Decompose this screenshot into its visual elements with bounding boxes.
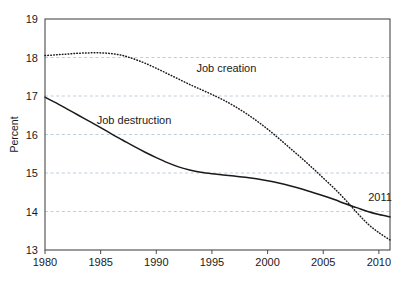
x-tick-label-2005: 2005	[311, 256, 335, 268]
y-axis-title: Percent	[8, 116, 20, 152]
chart-container: 13141516171819 1980198519901995200020052…	[0, 0, 416, 284]
y-tick-label-17: 17	[26, 90, 38, 102]
y-tick-label-15: 15	[26, 167, 38, 179]
y-tick-label-19: 19	[26, 13, 38, 25]
chart-annotations: 2011	[368, 191, 392, 203]
x-tick-label-1980: 1980	[33, 256, 57, 268]
y-tick-label-13: 13	[26, 244, 38, 256]
series-label-job-creation: Job creation	[196, 62, 256, 74]
x-tick-label-2000: 2000	[255, 256, 279, 268]
job-flows-line-chart: 13141516171819 1980198519901995200020052…	[0, 0, 416, 284]
y-tick-label-18: 18	[26, 52, 38, 64]
x-tick-label-1990: 1990	[144, 256, 168, 268]
x-tick-label-1995: 1995	[200, 256, 224, 268]
y-tick-label-16: 16	[26, 129, 38, 141]
x-tick-label-1985: 1985	[88, 256, 112, 268]
chart-background	[0, 0, 416, 284]
y-tick-label-14: 14	[26, 206, 38, 218]
x-tick-label-2010: 2010	[367, 256, 391, 268]
annotation-2011: 2011	[368, 191, 392, 203]
series-label-job-destruction: Job destruction	[97, 114, 172, 126]
